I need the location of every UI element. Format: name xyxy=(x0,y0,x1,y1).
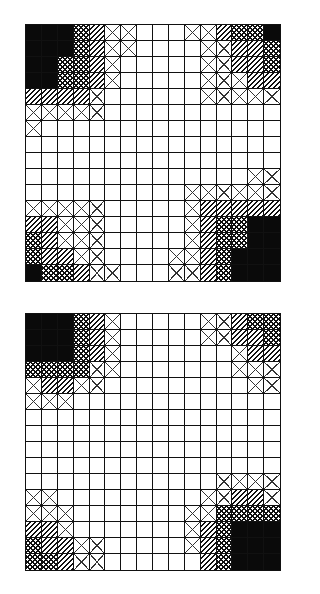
grid-cell-empty xyxy=(153,362,169,378)
grid-cell-crosshatch xyxy=(26,538,42,554)
grid-cell-empty xyxy=(137,394,153,410)
grid-cell-empty xyxy=(42,169,58,185)
grid-cell-crosshatch xyxy=(26,362,42,378)
grid-cell-empty xyxy=(58,185,74,201)
grid-cell-empty xyxy=(201,121,217,137)
grid-cell-solid-black xyxy=(58,346,74,362)
grid-cell-empty xyxy=(137,233,153,249)
grid-cell-empty xyxy=(248,442,264,458)
grid-cell-empty xyxy=(26,458,42,474)
grid-cell-empty xyxy=(153,554,169,570)
grid-cell-crosshatch xyxy=(26,249,42,265)
grid-cell-empty xyxy=(201,410,217,426)
grid-cell-empty xyxy=(169,105,185,121)
grid-cell-empty xyxy=(74,474,90,490)
grid-cell-empty xyxy=(137,137,153,153)
grid-cell-x-cross xyxy=(217,41,233,57)
grid-cell-empty xyxy=(90,185,106,201)
grid-cell-x-cross xyxy=(201,506,217,522)
grid-cell-x-cross xyxy=(232,73,248,89)
grid-cell-empty xyxy=(201,346,217,362)
grid-cell-x-cross xyxy=(42,490,58,506)
grid-cell-crosshatch xyxy=(42,362,58,378)
bottom-pattern-grid xyxy=(25,313,281,571)
grid-cell-empty xyxy=(264,137,280,153)
grid-cell-x-cross xyxy=(185,538,201,554)
grid-cell-solid-black xyxy=(232,554,248,570)
grid-cell-diagonal-hatch xyxy=(90,330,106,346)
grid-cell-crosshatch xyxy=(74,346,90,362)
grid-cell-x-cross xyxy=(185,201,201,217)
grid-cell-empty xyxy=(153,73,169,89)
grid-cell-crosshatch xyxy=(58,265,74,281)
grid-cell-empty xyxy=(137,41,153,57)
grid-cell-empty xyxy=(217,378,233,394)
grid-cell-empty xyxy=(137,201,153,217)
grid-cell-empty xyxy=(185,153,201,169)
grid-cell-x-cross xyxy=(42,201,58,217)
grid-cell-x-cross xyxy=(74,201,90,217)
grid-cell-empty xyxy=(121,394,137,410)
grid-cell-diagonal-hatch xyxy=(232,490,248,506)
grid-cell-solid-black xyxy=(42,57,58,73)
grid-cell-x-cross xyxy=(264,490,280,506)
grid-cell-x-cross xyxy=(90,233,106,249)
grid-cell-empty xyxy=(121,201,137,217)
grid-cell-empty xyxy=(217,153,233,169)
grid-cell-empty xyxy=(74,522,90,538)
grid-cell-solid-black xyxy=(232,538,248,554)
grid-cell-x-cross xyxy=(58,105,74,121)
grid-cell-empty xyxy=(264,105,280,121)
grid-cell-empty xyxy=(105,506,121,522)
grid-cell-x-cross xyxy=(217,330,233,346)
grid-cell-empty xyxy=(232,121,248,137)
grid-cell-empty xyxy=(248,137,264,153)
grid-cell-x-cross xyxy=(26,121,42,137)
grid-cell-diagonal-hatch xyxy=(232,57,248,73)
grid-cell-empty xyxy=(121,554,137,570)
grid-cell-empty xyxy=(26,185,42,201)
grid-cell-x-cross xyxy=(58,233,74,249)
grid-cell-empty xyxy=(105,522,121,538)
grid-cell-x-cross xyxy=(105,41,121,57)
grid-cell-empty xyxy=(121,490,137,506)
grid-cell-solid-black xyxy=(42,25,58,41)
grid-cell-empty xyxy=(42,121,58,137)
grid-cell-empty xyxy=(169,346,185,362)
grid-cell-empty xyxy=(90,394,106,410)
grid-cell-crosshatch xyxy=(264,41,280,57)
grid-cell-solid-black xyxy=(26,346,42,362)
grid-cell-crosshatch xyxy=(248,314,264,330)
grid-cell-empty xyxy=(74,490,90,506)
grid-cell-diagonal-hatch xyxy=(90,57,106,73)
grid-cell-crosshatch xyxy=(217,249,233,265)
grid-cell-empty xyxy=(169,137,185,153)
grid-cell-empty xyxy=(248,410,264,426)
grid-cell-empty xyxy=(137,330,153,346)
grid-cell-empty xyxy=(58,490,74,506)
grid-cell-empty xyxy=(153,105,169,121)
grid-cell-empty xyxy=(105,153,121,169)
grid-cell-empty xyxy=(105,442,121,458)
grid-cell-solid-black xyxy=(26,330,42,346)
grid-cell-crosshatch xyxy=(264,506,280,522)
grid-cell-x-cross xyxy=(201,330,217,346)
grid-cell-x-cross xyxy=(185,522,201,538)
grid-cell-empty xyxy=(74,137,90,153)
grid-cell-empty xyxy=(169,538,185,554)
grid-cell-empty xyxy=(137,25,153,41)
grid-cell-crosshatch xyxy=(42,265,58,281)
grid-cell-empty xyxy=(105,426,121,442)
grid-cell-empty xyxy=(185,121,201,137)
grid-cell-empty xyxy=(74,121,90,137)
grid-cell-empty xyxy=(121,153,137,169)
grid-cell-empty xyxy=(169,442,185,458)
grid-cell-empty xyxy=(217,458,233,474)
grid-cell-empty xyxy=(169,233,185,249)
grid-cell-x-cross xyxy=(74,249,90,265)
grid-cell-empty xyxy=(137,89,153,105)
grid-cell-empty xyxy=(153,474,169,490)
grid-cell-x-cross xyxy=(248,185,264,201)
grid-cell-empty xyxy=(185,490,201,506)
grid-cell-x-cross xyxy=(26,105,42,121)
